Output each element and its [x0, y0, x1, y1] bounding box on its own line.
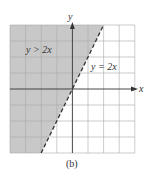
inequality-graph: y x y > 2x y = 2x (b) — [0, 0, 145, 187]
y-axis-label: y — [67, 11, 73, 22]
figure-caption: (b) — [66, 158, 78, 170]
boundary-line-label: y = 2x — [90, 61, 117, 72]
shaded-region-label: y > 2x — [25, 44, 52, 55]
x-axis-label: x — [138, 83, 144, 94]
